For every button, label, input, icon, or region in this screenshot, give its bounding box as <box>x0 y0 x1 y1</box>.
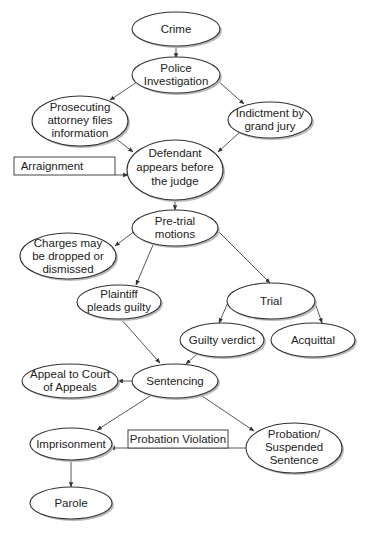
node-police-investigation: Police Investigation <box>132 57 222 95</box>
node-police-text-1: Police <box>160 62 191 74</box>
node-crime-text: Crime <box>161 23 192 35</box>
node-indictment: Indictment by grand jury <box>228 102 314 140</box>
edge-pretrial-charges <box>115 231 135 246</box>
node-prosecuting-text-1: Prosecuting <box>50 101 111 113</box>
node-pretrial-motions: Pre-trial motions <box>132 210 220 248</box>
node-appeal: Appeal to Court of Appeals <box>22 364 120 400</box>
probation-violation-label: Probation Violation <box>128 430 228 448</box>
node-charges-text-3: dismissed <box>42 263 93 275</box>
node-prosecuting-text-2: attorney files <box>47 114 112 126</box>
node-prosecuting-text-3: information <box>52 127 109 139</box>
node-imprisonment-text: Imprisonment <box>36 438 106 450</box>
edge-sentencing-imprisonment <box>97 396 150 430</box>
node-acquittal: Acquittal <box>271 323 357 359</box>
node-charges-text-1: Charges may <box>34 237 103 249</box>
flowchart-canvas: Arraignment Probation Violation Crime Po… <box>0 0 370 535</box>
edge-plaintiff-sentencing <box>120 318 160 363</box>
node-acquittal-text: Acquittal <box>291 334 335 346</box>
node-guilty-verdict: Guilty verdict <box>180 323 266 359</box>
node-parole: Parole <box>30 487 114 521</box>
edge-sentencing-probation <box>202 396 254 431</box>
node-trial-text: Trial <box>260 295 282 307</box>
node-probation-suspended: Probation/ Suspended Sentence <box>246 423 344 475</box>
node-crime: Crime <box>132 12 222 48</box>
node-defendant: Defendant appears before the judge <box>127 140 225 202</box>
node-pretrial-text-1: Pre-trial <box>155 215 195 227</box>
node-indictment-text-2: grand jury <box>244 120 295 132</box>
node-guilty-text: Guilty verdict <box>189 334 256 346</box>
node-trial: Trial <box>227 283 317 321</box>
edge-police-prosecuting <box>110 80 140 100</box>
node-prosecuting-attorney: Prosecuting attorney files information <box>32 96 130 148</box>
edge-guilty-sentencing <box>186 354 197 364</box>
node-appeal-text-2: of Appeals <box>43 381 97 393</box>
node-indictment-text-1: Indictment by <box>236 107 305 119</box>
node-plaintiff-text-1: Plaintiff <box>100 288 138 300</box>
node-defendant-text-2: appears before <box>136 161 213 173</box>
node-plaintiff-text-2: pleads guilty <box>87 301 151 313</box>
node-charges-dropped: Charges may be dropped or dismissed <box>20 233 118 281</box>
arraignment-text: Arraignment <box>21 160 84 172</box>
edge-indictment-defendant <box>218 132 240 152</box>
node-defendant-text-1: Defendant <box>148 147 202 159</box>
node-charges-text-2: be dropped or <box>32 250 104 262</box>
node-probation-text-2: Suspended <box>265 441 323 453</box>
node-probation-text-1: Probation/ <box>268 428 321 440</box>
node-police-text-2: Investigation <box>144 75 209 87</box>
node-parole-text: Parole <box>54 497 87 509</box>
node-sentencing: Sentencing <box>132 364 220 400</box>
node-defendant-text-3: the judge <box>151 175 198 187</box>
node-appeal-text-1: Appeal to Court <box>30 368 111 380</box>
edge-prosecuting-defendant <box>115 138 133 152</box>
node-plaintiff-pleads-guilty: Plaintiff pleads guilty <box>77 285 163 321</box>
node-probation-text-3: Sentence <box>270 454 319 466</box>
node-pretrial-text-2: motions <box>155 228 196 240</box>
edge-pretrial-trial <box>218 231 270 283</box>
node-imprisonment: Imprisonment <box>30 428 114 462</box>
probation-violation-text: Probation Violation <box>130 433 226 445</box>
arraignment-label: Arraignment <box>14 157 115 175</box>
edge-police-indictment <box>217 80 244 104</box>
edge-pretrial-plaintiff <box>136 245 153 285</box>
node-sentencing-text: Sentencing <box>146 375 204 387</box>
